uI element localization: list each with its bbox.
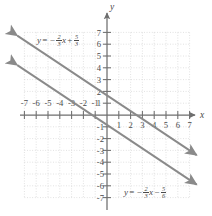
equation-label-1: y=−23x+53 bbox=[37, 34, 80, 48]
equation-1-const-denominator: 3 bbox=[74, 40, 79, 48]
x-tick-label: -7 bbox=[21, 98, 29, 108]
equation-2-coef-denominator: 3 bbox=[143, 192, 148, 200]
equation-1-const-numerator: 5 bbox=[74, 34, 79, 41]
equation-2-operator: − bbox=[153, 187, 160, 197]
y-tick-label: -4 bbox=[97, 157, 105, 167]
equation-2-const-denominator: 6 bbox=[161, 192, 166, 200]
equation-2-coef-numerator: 2 bbox=[143, 186, 148, 193]
y-tick-label: 6 bbox=[97, 39, 102, 49]
y-tick-label: -2 bbox=[97, 134, 104, 144]
x-tick-label: 5 bbox=[164, 120, 168, 130]
y-tick-label: 7 bbox=[97, 28, 102, 38]
equation-1-coefficient: 23 bbox=[56, 34, 61, 48]
y-tick-label: 5 bbox=[97, 51, 101, 61]
equation-2-constant: 56 bbox=[161, 186, 166, 200]
x-tick-label: 7 bbox=[187, 120, 192, 130]
y-axis-label: y bbox=[109, 2, 115, 12]
x-tick-label: 2 bbox=[128, 120, 132, 130]
equation-1-sign: − bbox=[48, 35, 55, 45]
equation-2-sign: − bbox=[135, 187, 142, 197]
graph-figure: -7 -6 -5 -4 -3 -2 -1 1 2 3 4 5 6 7 7 6 5… bbox=[0, 0, 212, 216]
x-tick-label: 1 bbox=[117, 120, 121, 130]
y-tick-label: 1 bbox=[97, 98, 101, 108]
y-tick-label: -1 bbox=[97, 122, 104, 132]
x-tick-label: 3 bbox=[140, 120, 144, 130]
equation-1-coef-numerator: 2 bbox=[56, 34, 61, 41]
equation-1-coef-denominator: 3 bbox=[56, 40, 61, 48]
equation-2-coefficient: 23 bbox=[143, 186, 148, 200]
y-tick-label: 4 bbox=[97, 63, 102, 73]
x-tick-label: 6 bbox=[176, 120, 181, 130]
x-tick-label: -4 bbox=[56, 98, 64, 108]
y-tick-label: -6 bbox=[97, 181, 105, 191]
cartesian-plane: -7 -6 -5 -4 -3 -2 -1 1 2 3 4 5 6 7 7 6 5… bbox=[0, 0, 212, 216]
y-tick-label: -7 bbox=[97, 193, 105, 203]
equation-label-2: y=−23x−56 bbox=[124, 186, 167, 200]
equation-1-operator: + bbox=[66, 35, 73, 45]
x-axis-label: x bbox=[199, 110, 205, 120]
x-tick-label: -5 bbox=[44, 98, 51, 108]
x-tick-label: -6 bbox=[33, 98, 41, 108]
equation-2-const-numerator: 5 bbox=[161, 186, 166, 193]
y-tick-label: -5 bbox=[97, 169, 104, 179]
y-tick-label: -3 bbox=[97, 146, 104, 156]
y-tick-label: 3 bbox=[97, 75, 101, 85]
equation-1-constant: 53 bbox=[74, 34, 79, 48]
